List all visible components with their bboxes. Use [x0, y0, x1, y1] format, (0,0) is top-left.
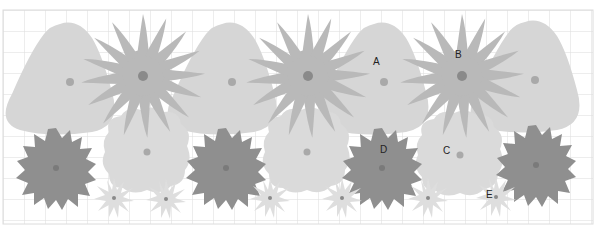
label-d: D — [380, 144, 387, 155]
diagram-canvas: A B C D E — [0, 0, 605, 231]
label-b: B — [455, 49, 462, 60]
label-a: A — [373, 56, 380, 67]
cloud-shape — [263, 107, 350, 192]
label-c: C — [443, 145, 450, 156]
label-e: E — [486, 189, 493, 200]
